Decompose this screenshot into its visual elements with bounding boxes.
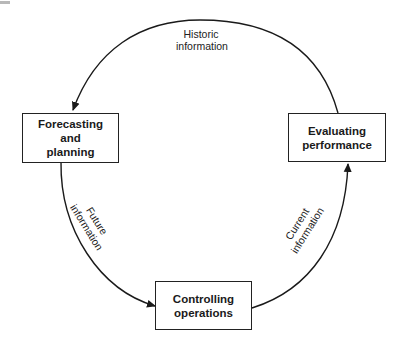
node-label: Forecasting and planning: [38, 117, 103, 159]
edge-label-historic: Historic information: [176, 28, 226, 52]
node-forecasting-planning: Forecasting and planning: [22, 113, 119, 163]
node-label: Controlling operations: [173, 292, 234, 320]
node-evaluating-performance: Evaluating performance: [288, 113, 386, 162]
node-controlling-operations: Controlling operations: [155, 281, 252, 330]
node-label: Evaluating performance: [302, 124, 372, 152]
